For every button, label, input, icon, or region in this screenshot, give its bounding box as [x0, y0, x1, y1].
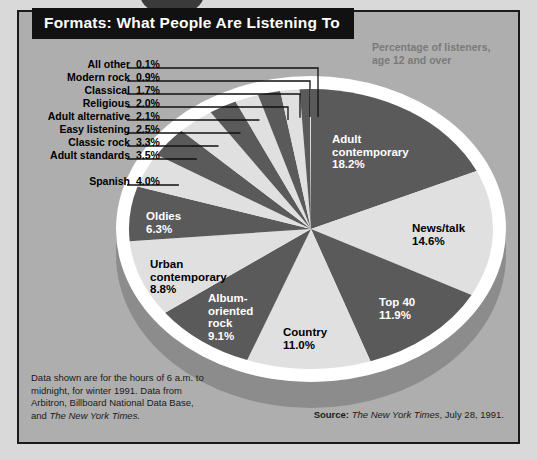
small-slice-label-name: All other	[87, 58, 130, 70]
small-slice-label-name: Classic rock	[68, 136, 130, 148]
small-slice-label-name: Modern rock	[67, 71, 130, 83]
footnote: Data shown are for the hours of 6 a.m. t…	[31, 372, 211, 422]
small-slice-label-row: All other0.1%	[20, 58, 170, 71]
small-slice-label-name: Religious	[83, 97, 130, 109]
small-slice-label-name: Classical	[84, 84, 130, 96]
footnote-italic: The New York Times.	[50, 410, 141, 421]
small-slice-label-value: 1.7%	[136, 84, 170, 96]
page-title: Formats: What People Are Listening To	[44, 14, 340, 31]
small-slice-label-row: Adult alternative2.1%	[20, 110, 170, 123]
source-date: , July 28, 1991.	[440, 409, 504, 420]
small-slice-label-value: 2.5%	[136, 123, 170, 135]
small-slice-label-name: Adult standards	[50, 149, 130, 161]
small-slice-label-row: Adult standards3.5%	[20, 149, 170, 162]
small-slice-label-value: 4.0%	[136, 175, 170, 187]
small-slice-label-row: Classical1.7%	[20, 84, 170, 97]
small-slice-label-row: Modern rock0.9%	[20, 71, 170, 84]
small-slice-label-row: Spanish4.0%	[20, 175, 170, 188]
source-line: Source: The New York Times, July 28, 199…	[314, 409, 504, 420]
screenshot-stage: Formats: What People Are Listening To Pe…	[0, 0, 537, 460]
small-slice-label-name: Spanish	[89, 175, 130, 187]
slice-label-top-40: Top 40 11.9%	[379, 296, 415, 321]
small-slice-label-name: Adult alternative	[48, 110, 130, 122]
small-slice-label-value: 2.0%	[136, 97, 170, 109]
slice-label-adult-contemporary: Adult contemporary 18.2%	[332, 133, 409, 171]
slice-label-urban-contemporary: Urban contemporary 8.8%	[150, 258, 227, 296]
small-slice-label-value: 3.3%	[136, 136, 170, 148]
slice-label-oldies: Oldies 6.3%	[146, 210, 181, 235]
source-publication: The New York Times	[352, 409, 440, 420]
slice-label-country: Country 11.0%	[283, 326, 327, 351]
slice-label-album-oriented-rock: Album- oriented rock 9.1%	[208, 292, 253, 342]
chart-title-bar: Formats: What People Are Listening To	[32, 8, 354, 39]
chart-subtitle: Percentage of listeners, age 12 and over	[372, 41, 522, 67]
small-slice-label-list: All other0.1%Modern rock0.9%Classical1.7…	[20, 58, 170, 188]
subtitle-line-2: age 12 and over	[372, 54, 522, 67]
small-slice-label-name: Easy listening	[59, 123, 130, 135]
subtitle-line-1: Percentage of listeners,	[372, 41, 522, 54]
small-slice-label-value: 0.9%	[136, 71, 170, 83]
small-slice-label-row: Easy listening2.5%	[20, 123, 170, 136]
small-slice-label-row: Classic rock3.3%	[20, 136, 170, 149]
small-slice-label-row: Religious2.0%	[20, 97, 170, 110]
small-slice-label-value: 0.1%	[136, 58, 170, 70]
small-slice-label-value: 2.1%	[136, 110, 170, 122]
source-label: Source:	[314, 409, 349, 420]
small-slice-label-value: 3.5%	[136, 149, 170, 161]
slice-label-news-talk: News/talk 14.6%	[412, 222, 465, 247]
